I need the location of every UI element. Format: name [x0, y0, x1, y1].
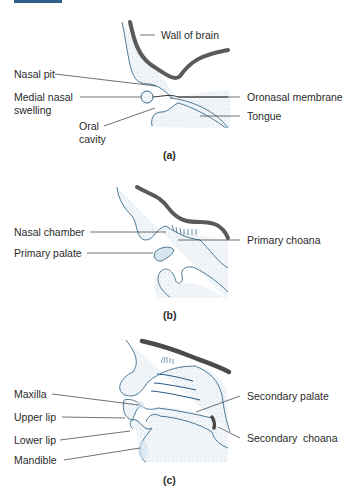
label-tongue: Tongue: [247, 110, 281, 122]
label-wall-of-brain: Wall of brain: [161, 29, 219, 41]
label-lower-lip: Lower lip: [14, 434, 56, 446]
panel-c-drawing: [120, 340, 230, 462]
label-medial-nasal-swelling-line1: Medial nasal: [14, 91, 73, 103]
label-mandible: Mandible: [14, 454, 57, 466]
caption-a: (a): [163, 149, 176, 161]
label-nasal-pit: Nasal pit: [14, 68, 55, 80]
label-oral-cavity-line2: cavity: [79, 133, 106, 145]
label-oronasal-membrane: Oronasal membrane: [247, 91, 343, 103]
label-secondary-palate: Secondary palate: [247, 390, 329, 402]
caption-b: (b): [163, 309, 176, 321]
label-primary-palate: Primary palate: [14, 247, 82, 259]
label-primary-choana: Primary choana: [247, 234, 321, 246]
label-maxilla: Maxilla: [14, 388, 47, 400]
label-oral-cavity-line1: Oral: [79, 120, 99, 132]
label-medial-nasal-swelling-line2: swelling: [14, 104, 51, 116]
caption-c: (c): [163, 474, 176, 486]
label-secondary-choana: Secondary choana: [247, 432, 337, 444]
label-upper-lip: Upper lip: [14, 411, 56, 423]
label-nasal-chamber: Nasal chamber: [14, 226, 85, 238]
panel-b-drawing: [117, 187, 228, 300]
